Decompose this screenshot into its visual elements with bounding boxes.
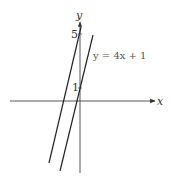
- tick-label-1: 1: [72, 81, 79, 94]
- x-axis-label: x: [157, 95, 164, 108]
- coordinate-plane: y x 5 1 y = 4x + 1: [0, 0, 172, 178]
- line-parallel: [49, 27, 81, 163]
- line-y-equals-4x-plus-1: [60, 35, 93, 171]
- tick-label-5: 5: [71, 28, 78, 41]
- y-axis-label: y: [75, 9, 83, 22]
- equation-label: y = 4x + 1: [92, 50, 147, 61]
